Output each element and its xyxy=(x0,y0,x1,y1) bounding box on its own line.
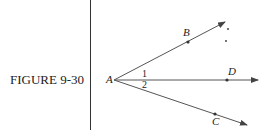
point-B xyxy=(186,40,189,43)
angle-diagram: A B D C 1 2 xyxy=(0,0,274,130)
label-D: D xyxy=(227,65,236,77)
label-B: B xyxy=(183,26,190,38)
dot-mark xyxy=(227,28,229,30)
dot-mark xyxy=(225,40,227,42)
label-A: A xyxy=(105,73,113,85)
point-D xyxy=(225,78,228,81)
ray-AC xyxy=(114,80,247,125)
label-C: C xyxy=(212,115,220,127)
angle-1-label: 1 xyxy=(142,68,147,79)
ray-AB xyxy=(114,22,225,80)
angle-2-label: 2 xyxy=(142,79,147,90)
